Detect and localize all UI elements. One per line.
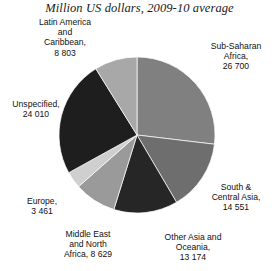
pie-chart-figure: Million US dollars, 2009-10 average Lati… bbox=[0, 0, 279, 271]
slice-label-middle-east-and-north-africa: Middle East and North Africa, 8 629 bbox=[45, 229, 131, 260]
slice-label-europe: Europe, 3 461 bbox=[13, 196, 71, 216]
slice-label-south-and-central-asia: South & Central Asia, 14 551 bbox=[196, 182, 276, 213]
slice-label-sub-saharan-africa: Sub-Saharan Africa, 26 700 bbox=[196, 41, 276, 72]
slice-label-unspecified: Unspecified, 24 010 bbox=[3, 99, 69, 119]
slice-label-other-asia-and-oceania: Other Asia and Oceania, 13 174 bbox=[150, 232, 236, 263]
pie-slices-group bbox=[59, 57, 215, 213]
slice-label-latin-america-and-caribbean: Latin America and Caribbean, 8 803 bbox=[22, 17, 108, 58]
